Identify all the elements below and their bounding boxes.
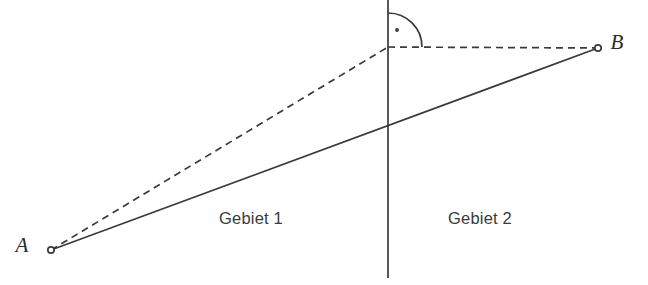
point-a-label: A — [14, 233, 29, 257]
right-angle-dot-icon — [395, 28, 399, 32]
right-angle-arc — [388, 13, 422, 47]
region-label-gebiet-2: Gebiet 2 — [448, 209, 512, 227]
point-b-marker — [595, 45, 601, 51]
diagram-svg: A B Gebiet 1 Gebiet 2 — [0, 0, 648, 285]
solid-ray-a-to-b — [51, 48, 598, 250]
point-a-marker — [48, 247, 54, 253]
dashed-segment-c-to-b — [388, 47, 598, 48]
point-b-label: B — [611, 30, 624, 54]
region-label-gebiet-1: Gebiet 1 — [219, 209, 283, 227]
diagram-canvas: A B Gebiet 1 Gebiet 2 — [0, 0, 648, 285]
